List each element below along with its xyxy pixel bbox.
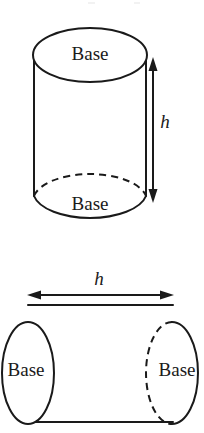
- figure-canvas: Base Base h: [0, 0, 204, 433]
- vertical-dimension-arrowhead-top: [149, 57, 158, 71]
- horizontal-right-base-label: Base: [159, 359, 196, 380]
- horizontal-dimension-arrowhead-left: [27, 291, 41, 300]
- vertical-top-base-label: Base: [72, 43, 109, 64]
- vertical-bottom-base-label: Base: [72, 193, 109, 214]
- horizontal-left-base-label: Base: [8, 359, 45, 380]
- cylinder-figure: Base Base h: [0, 0, 204, 433]
- vertical-cylinder: Base Base h: [33, 28, 170, 218]
- horizontal-cylinder: Base Base h: [2, 268, 202, 424]
- vertical-dimension-arrowhead-bottom: [149, 189, 158, 203]
- horizontal-height-dimension-arrow: [27, 291, 174, 300]
- horizontal-height-label: h: [94, 268, 104, 289]
- horizontal-dimension-arrowhead-right: [160, 291, 174, 300]
- vertical-height-label: h: [160, 111, 170, 132]
- vertical-height-dimension-arrow: [149, 57, 158, 203]
